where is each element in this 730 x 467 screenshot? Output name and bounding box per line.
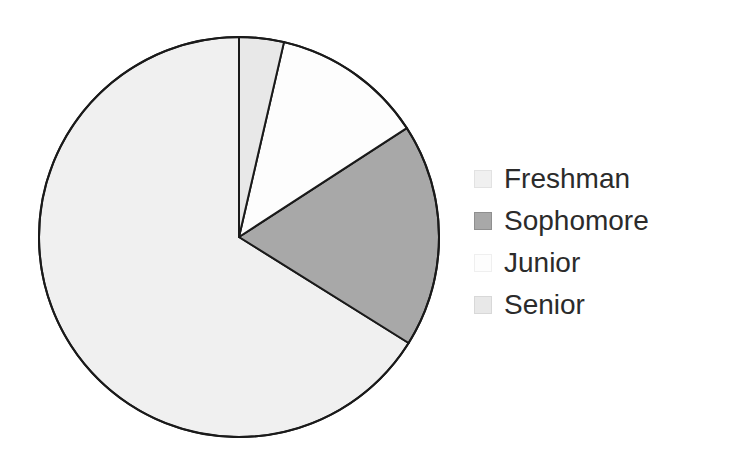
legend-label-junior: Junior [504,248,580,278]
legend-swatch-senior [474,296,492,314]
chart-legend: Freshman Sophomore Junior Senior [474,158,724,326]
legend-label-senior: Senior [504,290,585,320]
legend-item-junior[interactable]: Junior [474,242,724,284]
legend-label-sophomore: Sophomore [504,206,649,236]
legend-swatch-freshman [474,170,492,188]
pie-slice-group [39,37,439,437]
legend-swatch-sophomore [474,212,492,230]
legend-item-sophomore[interactable]: Sophomore [474,200,724,242]
legend-swatch-junior [474,254,492,272]
legend-item-senior[interactable]: Senior [474,284,724,326]
pie-chart-figure: Freshman Sophomore Junior Senior [0,0,730,467]
legend-label-freshman: Freshman [504,164,630,194]
legend-item-freshman[interactable]: Freshman [474,158,724,200]
